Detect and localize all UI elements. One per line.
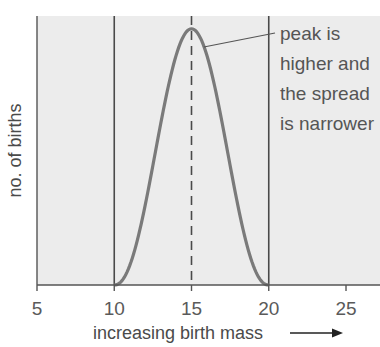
x-tick-label: 15	[181, 298, 202, 319]
x-tick-label: 20	[258, 298, 279, 319]
x-tick-label: 10	[104, 298, 125, 319]
annotation-text-line: higher and	[280, 53, 370, 74]
annotation-text-line: is narrower	[280, 113, 375, 134]
y-axis-label: no. of births	[5, 103, 25, 197]
x-axis-label: increasing birth mass	[93, 323, 263, 343]
chart: 510152025 peak ishigher andthe spreadis …	[0, 0, 380, 347]
x-axis-arrow-icon	[290, 329, 343, 338]
annotation-text-line: peak is	[280, 23, 340, 44]
annotation-text-line: the spread	[280, 83, 370, 104]
x-tick-label: 25	[335, 298, 356, 319]
x-tick-label: 5	[32, 298, 43, 319]
